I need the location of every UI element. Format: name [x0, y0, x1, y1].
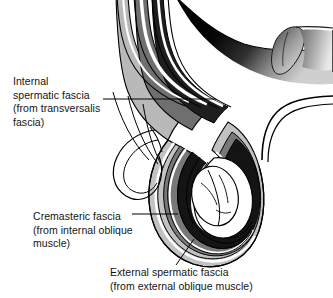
label-internal-spermatic-fascia: Internal spermatic fascia (from transver… — [13, 75, 100, 129]
label-cremasteric-line-3: muscle) — [33, 237, 133, 251]
cord-right-shoulder — [300, 30, 333, 71]
label-cremasteric-line-2: (from internal oblique — [33, 224, 133, 238]
label-external-line-1: External spermatic fascia — [110, 266, 253, 280]
label-cremasteric-line-1: Cremasteric fascia — [33, 210, 133, 224]
figure-canvas: Internal spermatic fascia (from transver… — [0, 0, 333, 298]
label-external-line-2: (from external oblique muscle) — [110, 280, 253, 294]
label-cremasteric-fascia: Cremasteric fascia (from internal obliqu… — [33, 210, 133, 251]
anatomy-illustration — [0, 0, 333, 298]
label-internal-line-4: fascia) — [13, 116, 100, 130]
label-internal-line-2: spermatic fascia — [13, 89, 100, 103]
label-external-spermatic-fascia: External spermatic fascia (from external… — [110, 266, 253, 293]
label-internal-line-1: Internal — [13, 75, 100, 89]
label-internal-line-3: (from transversalis — [13, 102, 100, 116]
